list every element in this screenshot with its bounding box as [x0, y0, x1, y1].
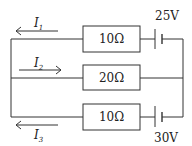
battery-top-label: 25V	[155, 9, 179, 23]
current-label-i3: I3	[33, 128, 44, 144]
resistor-middle-label: 20Ω	[99, 71, 124, 85]
middle-branch: 20Ω I2	[11, 56, 183, 90]
resistor-bottom-label: 10Ω	[99, 110, 124, 124]
current-label-i2: I2	[33, 56, 44, 72]
current-label-i1: I1	[33, 16, 43, 32]
resistor-top-label: 10Ω	[99, 32, 124, 46]
bottom-branch: 10Ω 30V I3	[11, 104, 183, 145]
circuit-diagram: 10Ω 25V I1 20Ω I2 10Ω 30V I3	[0, 0, 192, 146]
battery-bottom-label: 30V	[154, 131, 178, 145]
top-branch: 10Ω 25V I1	[11, 9, 183, 52]
